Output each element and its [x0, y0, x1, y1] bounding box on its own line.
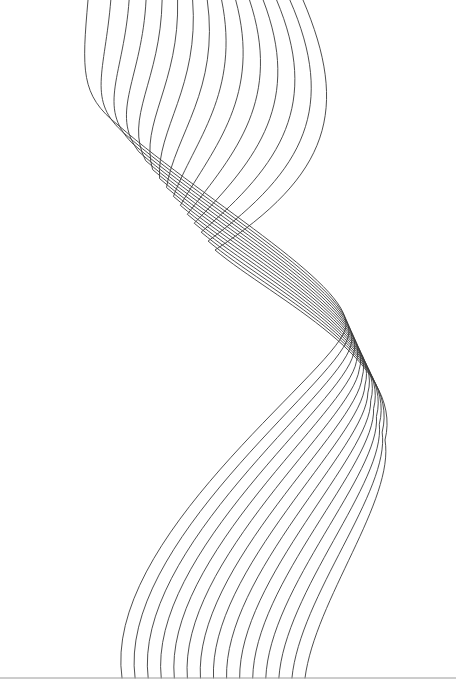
- ribbon-line-art: [0, 0, 456, 699]
- background: [0, 0, 456, 699]
